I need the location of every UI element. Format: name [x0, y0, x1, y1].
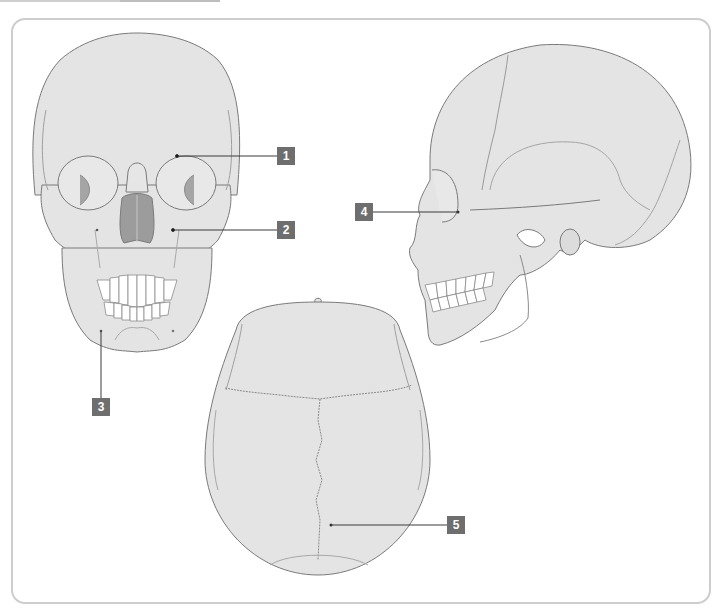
label-3: 3 — [92, 398, 110, 416]
lateral-skull — [409, 44, 690, 345]
label-5: 5 — [447, 516, 465, 534]
superior-skull — [205, 298, 430, 575]
skull-illustration — [0, 0, 726, 611]
label-4: 4 — [355, 203, 373, 221]
label-2: 2 — [277, 221, 295, 239]
label-1: 1 — [277, 147, 295, 165]
anterior-skull — [33, 33, 240, 352]
